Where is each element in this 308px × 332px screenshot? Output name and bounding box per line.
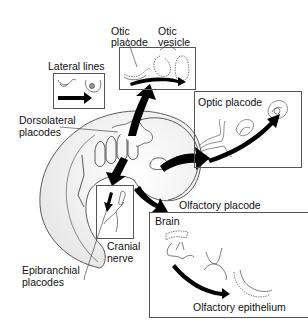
label-epibranchial-line1: Epibranchial [22,264,80,276]
cranial-nerve-box [96,185,134,239]
label-otic-vesicle-line2: vesicle [158,36,190,48]
label-dorsolateral-line1: Dorsolateral [19,114,76,126]
label-epibranchial-line2: placodes [22,276,64,288]
label-lateral-lines: Lateral lines [48,60,105,72]
label-cranial-nerve-line1: Cranial [107,240,140,252]
label-olfactory-epithelium: Olfactory epithelium [193,301,286,313]
label-optic-placode: Optic placode [198,96,262,108]
label-olfactory-placode: Olfactory placode [179,199,261,211]
label-cranial-nerve-line2: nerve [107,252,133,264]
label-otic-placode-line2: placode [111,36,148,48]
lateral-lines-box [53,73,105,109]
label-brain: Brain [155,215,180,227]
otic-box [119,47,196,90]
label-dorsolateral-line2: placodes [19,126,61,138]
